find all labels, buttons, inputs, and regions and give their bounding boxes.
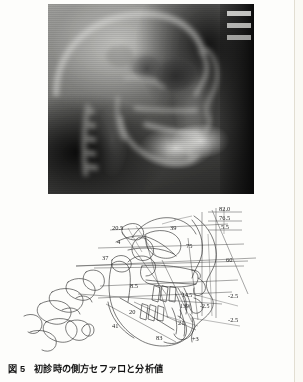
measurement-14-5: 14.5 <box>182 292 192 298</box>
figure-caption-number: 図 5 <box>8 364 25 374</box>
orbit-outline <box>146 231 181 259</box>
measurement-75: 75 <box>186 242 192 249</box>
measurement-20: 20 <box>129 308 135 315</box>
measurement-neg2-5-right-upper: -2.5 <box>228 292 238 299</box>
measurement-20-5: 20.5 <box>112 224 123 231</box>
measurement-41: 41 <box>112 322 118 329</box>
page-edge-line <box>294 0 295 382</box>
figure-page: 82.0 76.5 5.5 20.5 4 37 39 75 60 -2.5 -2… <box>0 0 303 382</box>
measurement-60: 60 <box>226 256 232 263</box>
cervical-vertebrae <box>24 270 104 351</box>
measurement-5-5: 5.5 <box>221 223 229 230</box>
page-gutter-fill <box>295 0 303 382</box>
cephalometric-tracing: 82.0 76.5 5.5 20.5 4 37 39 75 60 -2.5 -2… <box>16 198 286 356</box>
measurement-39: 39 <box>170 224 176 231</box>
measurement-37: 37 <box>102 254 109 261</box>
nasal-bone <box>192 220 203 278</box>
figure-caption-text: 初診時の側方セファロと分析値 <box>34 364 163 374</box>
figure-caption: 図 5初診時の側方セファロと分析値 <box>8 361 288 375</box>
measurement-plus3: +3 <box>192 335 199 342</box>
tracing-drawing: 82.0 76.5 5.5 20.5 4 37 39 75 60 -2.5 -2… <box>16 198 286 356</box>
measurement-8-5: 8.5 <box>130 282 138 289</box>
measurement-21: 21 <box>178 319 184 326</box>
measurement-76-5: 76.5 <box>219 214 230 221</box>
measurement-neg2-5-right-lower: -2.5 <box>228 316 238 323</box>
measurement-4: 4 <box>117 238 121 245</box>
measurement-neg2-5-mid: -2.5 <box>200 303 209 309</box>
hyoid-bone <box>82 324 94 336</box>
measurement-139: 139 <box>180 303 189 309</box>
measurement-82-0: 82.0 <box>219 205 230 212</box>
measurement-83: 83 <box>156 334 162 341</box>
radiograph-headholder-markers <box>227 11 251 45</box>
lateral-cephalometric-radiograph <box>48 4 254 194</box>
soft-tissue-profile <box>191 216 216 342</box>
porion-outline <box>122 224 144 241</box>
upper-lip <box>193 278 205 296</box>
